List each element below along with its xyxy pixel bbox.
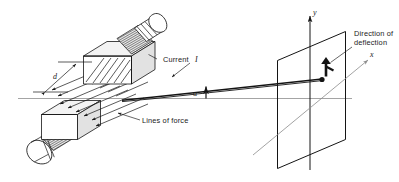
physics-deflection-diagram: d Current I Lines of force α y x bbox=[0, 0, 399, 182]
diagram-background bbox=[0, 0, 399, 182]
direction-of-deflection-line2: deflection bbox=[354, 38, 387, 47]
beam-spot bbox=[319, 77, 324, 82]
current-label: Current bbox=[163, 55, 189, 64]
diagram-canvas: d Current I Lines of force α y x bbox=[0, 0, 399, 182]
direction-of-deflection-line1: Direction of bbox=[354, 29, 394, 38]
axis-x-label: x bbox=[369, 50, 374, 59]
axis-y-label: y bbox=[312, 8, 317, 17]
current-symbol-label: I bbox=[194, 55, 198, 64]
lines-of-force-label: Lines of force bbox=[142, 116, 188, 125]
